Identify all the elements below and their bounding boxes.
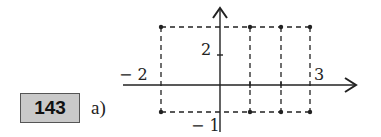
label-y-neg1: − 1 [191, 116, 220, 135]
point [248, 110, 252, 114]
point [308, 110, 312, 114]
point [248, 25, 252, 29]
point [308, 25, 312, 29]
grid-points [159, 25, 312, 114]
label-x-neg2: − 2 [119, 65, 148, 84]
point [279, 25, 283, 29]
point [159, 110, 163, 114]
point [279, 110, 283, 114]
point [159, 25, 163, 29]
coordinate-diagram: 2 − 2 3 − 1 [0, 0, 381, 137]
dashed-rectangle [161, 27, 310, 112]
label-y-2: 2 [201, 40, 211, 59]
label-x-3: 3 [314, 65, 324, 84]
